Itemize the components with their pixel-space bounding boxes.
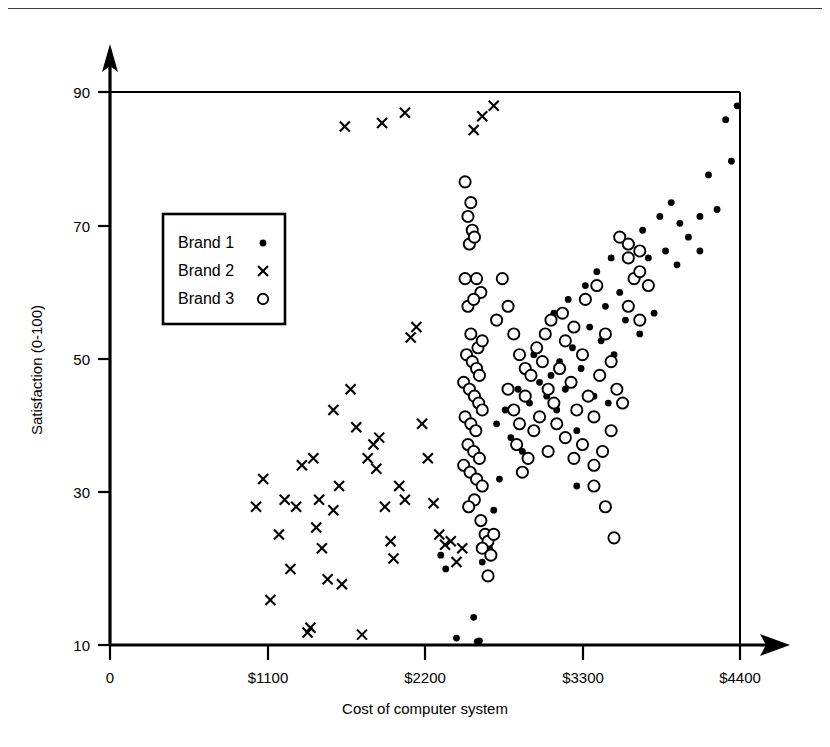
data-point-open-circle [623,238,634,249]
x-tick-label: 0 [106,669,114,686]
plot-frame [110,92,740,645]
data-point-open-circle [577,349,588,360]
data-point-filled-dot [697,213,704,220]
data-point-open-circle [497,273,508,284]
data-point-open-circle [560,432,571,443]
data-point-cross [411,322,421,332]
data-point-cross [337,579,347,589]
data-point-filled-dot [662,248,669,255]
data-point-cross [400,495,410,505]
data-point-open-circle [623,252,634,263]
data-point-open-circle [594,370,605,381]
data-point-filled-dot [622,317,629,324]
data-point-cross [291,502,301,512]
data-point-cross [340,122,350,132]
data-point-open-circle [462,211,473,222]
data-point-filled-dot [697,248,704,255]
data-point-open-circle [606,425,617,436]
series-brand-3 [458,176,654,581]
data-point-filled-dot [442,566,449,573]
data-point-open-circle [543,384,554,395]
data-point-cross [417,419,427,429]
data-point-cross [357,630,367,640]
data-point-cross [469,125,479,135]
legend-marker-filled-dot-icon [260,240,267,247]
x-axis-ticks [110,645,740,660]
data-point-cross [258,474,268,484]
data-point-open-circle [517,467,528,478]
scatter-plot-figure: 90 70 50 30 10 0 $1100 $2200 $3300 $4400… [0,0,830,747]
data-point-open-circle [477,335,488,346]
data-point-open-circle [548,397,559,408]
y-axis-tick-labels: 90 70 50 30 10 [73,84,90,654]
data-point-open-circle [557,308,568,319]
data-point-open-circle [531,342,542,353]
data-point-filled-dot [490,507,497,514]
data-point-open-circle [465,197,476,208]
data-point-cross [280,495,290,505]
x-tick-label: $3300 [562,669,604,686]
data-point-open-circle [528,425,539,436]
data-point-open-circle [551,418,562,429]
data-point-open-circle [600,501,611,512]
data-point-cross [311,522,321,532]
data-point-open-circle [482,570,493,581]
data-point-cross [489,101,499,111]
data-point-open-circle [502,301,513,312]
data-point-open-circle [540,328,551,339]
data-point-open-circle [606,356,617,367]
data-point-cross [285,564,295,574]
data-point-cross [380,502,390,512]
data-point-filled-dot [548,372,555,379]
data-point-cross [400,108,410,118]
legend-marker-open-circle-icon [258,294,268,304]
data-point-cross [265,595,275,605]
data-point-open-circle [463,501,474,512]
data-point-open-circle [560,335,571,346]
data-point-open-circle [643,280,654,291]
data-point-filled-dot [636,331,643,338]
y-axis [102,44,118,645]
data-point-filled-dot [722,116,729,123]
data-point-open-circle [508,328,519,339]
data-point-open-circle [634,315,645,326]
data-point-filled-dot [651,310,658,317]
data-point-open-circle [485,550,496,561]
data-point-open-circle [534,411,545,422]
data-point-filled-dot [593,268,600,275]
data-point-cross [386,536,396,546]
data-point-filled-dot [586,324,593,331]
data-point-filled-dot [565,296,572,303]
data-point-open-circle [488,529,499,540]
data-point-cross [423,453,433,463]
data-point-open-circle [474,370,485,381]
data-point-open-circle [568,453,579,464]
data-point-filled-dot [476,637,483,644]
data-point-filled-dot [656,213,663,220]
data-point-cross [389,554,399,564]
data-point-open-circle [465,328,476,339]
data-point-cross [434,529,444,539]
data-point-open-circle [577,439,588,450]
data-point-open-circle [554,363,565,374]
data-point-open-circle [491,315,502,326]
data-point-open-circle [568,321,579,332]
y-axis-title: Satisfaction (0-100) [28,305,45,435]
data-point-open-circle [511,439,522,450]
data-point-cross [346,384,356,394]
data-point-open-circle [477,404,488,415]
data-point-filled-dot [569,344,576,351]
data-point-open-circle [634,266,645,277]
data-point-open-circle [522,453,533,464]
data-point-filled-dot [705,172,712,179]
data-point-open-circle [469,232,480,243]
data-point-filled-dot [515,386,522,393]
data-point-open-circle [623,301,634,312]
data-point-filled-dot [616,289,623,296]
data-point-filled-dot [479,559,486,566]
data-point-open-circle [608,532,619,543]
data-point-open-circle [468,294,479,305]
data-point-filled-dot [573,483,580,490]
data-point-open-circle [583,391,594,402]
data-point-filled-dot [453,635,460,642]
